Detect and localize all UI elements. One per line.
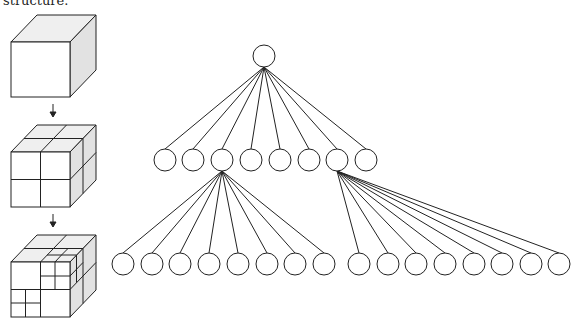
tree-edge xyxy=(264,67,366,149)
tree-edge xyxy=(222,171,324,253)
tree-edge xyxy=(337,171,445,253)
level-1-node xyxy=(269,149,291,171)
tree-edge xyxy=(264,67,337,149)
tree-edge xyxy=(264,67,280,149)
level-2-node xyxy=(348,253,370,275)
level-1-node xyxy=(355,149,377,171)
tree-edge xyxy=(337,171,502,253)
level-2-node xyxy=(405,253,427,275)
tree-edge xyxy=(123,171,222,253)
root-cube xyxy=(11,15,96,97)
tree-edge xyxy=(337,171,474,253)
level-2-node xyxy=(313,253,335,275)
level-2-node xyxy=(198,253,220,275)
level-2-node xyxy=(227,253,249,275)
tree-edge xyxy=(337,171,559,253)
level-2-node xyxy=(520,253,542,275)
tree-edge xyxy=(152,171,222,253)
level-2-cube xyxy=(11,235,96,317)
level-2-node xyxy=(491,253,513,275)
level-1-cube xyxy=(11,125,96,207)
level-2-node xyxy=(284,253,306,275)
tree-edge xyxy=(337,171,416,253)
tree-edge xyxy=(337,171,359,253)
level-1-node xyxy=(240,149,262,171)
arrow-down-icon xyxy=(50,104,56,117)
level-2-node xyxy=(463,253,485,275)
level-2-node xyxy=(548,253,570,275)
level-1-node xyxy=(211,149,233,171)
level-2-node xyxy=(434,253,456,275)
tree-edge xyxy=(222,171,267,253)
tree-edge xyxy=(264,67,309,149)
root-node xyxy=(253,45,275,67)
octree-diagram xyxy=(0,0,583,329)
level-2-node xyxy=(141,253,163,275)
level-2-node xyxy=(112,253,134,275)
level-1-node xyxy=(326,149,348,171)
level-1-node xyxy=(298,149,320,171)
level-2-node xyxy=(377,253,399,275)
arrow-down-icon xyxy=(50,214,56,227)
level-1-node xyxy=(154,149,176,171)
level-2-node xyxy=(169,253,191,275)
level-2-node xyxy=(256,253,278,275)
tree-edge xyxy=(222,171,238,253)
tree-edge xyxy=(337,171,531,253)
level-1-node xyxy=(182,149,204,171)
tree xyxy=(112,45,570,275)
tree-edge xyxy=(222,171,295,253)
tree-edge xyxy=(165,67,264,149)
